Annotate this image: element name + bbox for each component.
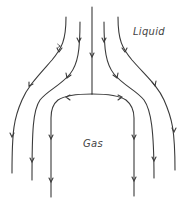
streamline-right-outer: [118, 17, 176, 170]
arrow-icon: [77, 38, 81, 42]
streamline-right-middle: [102, 22, 156, 178]
streamline-left-outer: [10, 17, 66, 173]
gas-label: Gas: [83, 138, 103, 149]
streamline-left-middle: [30, 22, 81, 180]
arrow-icon: [172, 128, 176, 132]
streamline-diagram: Liquid Gas: [0, 0, 184, 201]
streamline-center: [49, 7, 136, 197]
liquid-label: Liquid: [133, 26, 165, 37]
arrow-icon: [66, 95, 70, 100]
